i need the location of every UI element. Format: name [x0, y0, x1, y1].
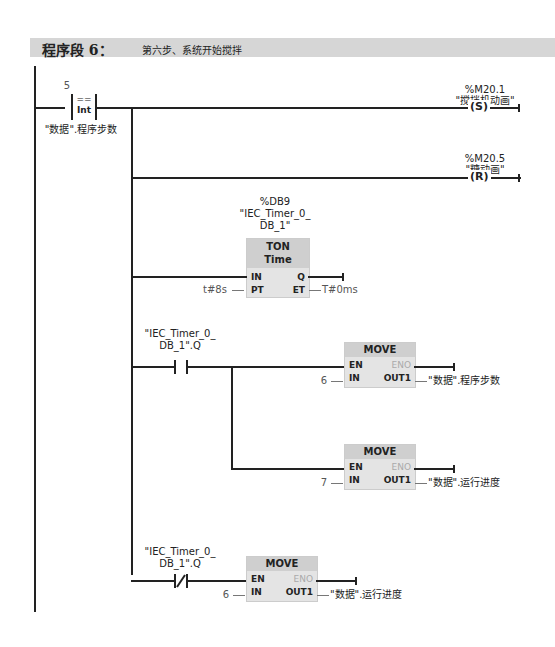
pin-en: EN — [349, 462, 363, 472]
wire — [34, 107, 65, 109]
move-block-1[interactable]: MOVE EN ENO IN OUT1 — [344, 342, 416, 388]
pin-out: OUT1 — [384, 475, 411, 485]
move-block-3[interactable]: MOVE EN ENO IN OUT1 — [246, 556, 318, 602]
move-title: MOVE — [345, 343, 415, 357]
timer-db: %DB9 — [230, 196, 320, 208]
wire — [316, 580, 356, 582]
wire — [415, 483, 427, 484]
ton-timer-block[interactable]: TON Time IN Q PT ET — [246, 238, 310, 298]
compare-type: Int — [73, 105, 95, 116]
network-header[interactable]: 程序段 6： 第六步、系统开始搅拌 — [30, 38, 555, 57]
timer-et-value[interactable]: T#0ms — [322, 284, 352, 296]
wire — [317, 595, 329, 596]
pin-in: IN — [349, 475, 360, 485]
wire-end — [453, 465, 455, 473]
pin-eno: ENO — [391, 360, 411, 370]
pin-q: Q — [297, 272, 305, 282]
compare-operand: "数据".程序步数 — [36, 124, 126, 136]
power-rail — [34, 66, 36, 612]
wire — [233, 595, 245, 596]
compare-op: == — [73, 94, 95, 105]
pin-eno: ENO — [391, 462, 411, 472]
contact-nc-line2: DB_1".Q — [140, 558, 220, 570]
pin-pt: PT — [251, 285, 264, 295]
wire — [232, 290, 244, 291]
wire — [131, 366, 346, 368]
wire-end — [518, 104, 520, 112]
timer-type: TON — [247, 240, 309, 253]
wire-end — [355, 577, 357, 585]
pin-in: IN — [251, 272, 262, 282]
pin-en: EN — [349, 360, 363, 370]
wire — [96, 107, 516, 109]
pin-out: OUT1 — [286, 587, 313, 597]
pin-en: EN — [251, 574, 265, 584]
wire — [308, 276, 343, 278]
wire — [309, 290, 321, 291]
move-title: MOVE — [247, 557, 317, 571]
wire — [490, 107, 520, 109]
wire — [131, 177, 521, 179]
contact-no-line2: DB_1".Q — [140, 340, 220, 352]
pin-in: IN — [251, 587, 262, 597]
wire — [331, 483, 343, 484]
wire-end — [518, 174, 520, 182]
move3-out[interactable]: "数据".运行进度 — [330, 589, 402, 601]
wire — [331, 381, 343, 382]
pin-in: IN — [349, 373, 360, 383]
wire — [415, 381, 427, 382]
timer-instance-1: "IEC_Timer_0_ — [230, 208, 320, 220]
move-block-2[interactable]: MOVE EN ENO IN OUT1 — [344, 444, 416, 490]
move1-out[interactable]: "数据".程序步数 — [428, 375, 500, 387]
no-contact[interactable] — [174, 360, 188, 374]
timer-instance-2: DB_1" — [230, 220, 320, 232]
wire — [231, 468, 346, 470]
network-title: 程序段 6： — [42, 39, 113, 59]
wire — [414, 366, 454, 368]
wire-end — [453, 363, 455, 371]
move2-out[interactable]: "数据".运行进度 — [428, 477, 500, 489]
move1-in-value[interactable]: 6 — [318, 375, 330, 387]
wire — [131, 276, 247, 278]
wire — [131, 580, 248, 582]
contact-no-line1: "IEC_Timer_0_ — [140, 328, 220, 340]
nc-contact[interactable] — [174, 574, 188, 588]
pin-out: OUT1 — [384, 373, 411, 383]
pin-et: ET — [293, 285, 305, 295]
wire-end — [342, 273, 344, 281]
wire — [414, 468, 454, 470]
move3-in-value[interactable]: 6 — [220, 589, 232, 601]
network-comment[interactable]: 第六步、系统开始搅拌 — [142, 42, 242, 57]
set-coil[interactable]: (S) — [468, 100, 490, 113]
contact-nc-line1: "IEC_Timer_0_ — [140, 546, 220, 558]
timer-pt-value[interactable]: t#8s — [200, 284, 230, 296]
reset-coil[interactable]: (R) — [468, 170, 491, 183]
move-title: MOVE — [345, 445, 415, 459]
timer-subtype: Time — [247, 253, 309, 266]
branch-wire — [231, 366, 233, 470]
compare-value: 5 — [60, 80, 74, 92]
pin-eno: ENO — [293, 574, 313, 584]
move2-in-value[interactable]: 7 — [318, 477, 330, 489]
compare-contact[interactable]: == Int — [71, 94, 97, 120]
